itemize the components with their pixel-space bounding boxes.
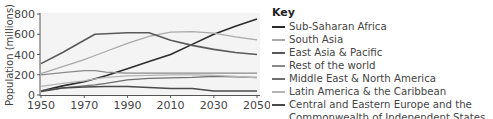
legend-swatch (272, 104, 285, 106)
legend-label: South Asia (289, 33, 343, 46)
legend-label: East Asia & Pacific (289, 46, 382, 59)
x-tick-label: 1990 (113, 99, 141, 112)
legend-swatch (272, 78, 285, 80)
legend-item: Rest of the world (272, 59, 493, 72)
legend-swatch (272, 39, 285, 41)
legend-label: Middle East & North America (289, 72, 436, 85)
y-tick-label: 400 (14, 49, 35, 62)
y-tick-label: 800 (14, 8, 35, 21)
legend: Key Sub-Saharan AfricaSouth AsiaEast Asi… (272, 6, 493, 119)
legend-swatch (272, 26, 285, 28)
legend-item: Latin America & the Caribbean (272, 85, 493, 98)
legend-swatch (272, 91, 285, 93)
legend-item: Central and Eastern Europe and the Commo… (272, 98, 493, 119)
legend-items: Sub-Saharan AfricaSouth AsiaEast Asia & … (272, 20, 493, 119)
legend-swatch (272, 52, 285, 54)
y-tick-label: 600 (14, 28, 35, 41)
y-tick-label: 200 (14, 69, 35, 82)
legend-label: Sub-Saharan Africa (289, 20, 387, 33)
x-tick-label: 2010 (157, 99, 185, 112)
legend-label: Central and Eastern Europe and the Commo… (289, 98, 493, 119)
legend-item: South Asia (272, 33, 493, 46)
legend-item: Middle East & North America (272, 72, 493, 85)
legend-swatch (272, 65, 285, 67)
x-tick-label: 2030 (200, 99, 228, 112)
legend-item: East Asia & Pacific (272, 46, 493, 59)
legend-label: Latin America & the Caribbean (289, 85, 446, 98)
x-tick-label: 1950 (27, 99, 55, 112)
legend-label: Rest of the world (289, 59, 376, 72)
legend-item: Sub-Saharan Africa (272, 20, 493, 33)
x-tick-label: 2050 (243, 99, 270, 112)
legend-title: Key (272, 6, 493, 19)
y-ticks: 0200400600800 (14, 8, 40, 102)
x-ticks: 195019701990201020302050 (27, 95, 270, 112)
y-axis-label: Population (millions) (4, 4, 15, 106)
x-tick-label: 1970 (70, 99, 98, 112)
line-chart: 0200400600800 195019701990201020302050 P… (0, 0, 270, 119)
